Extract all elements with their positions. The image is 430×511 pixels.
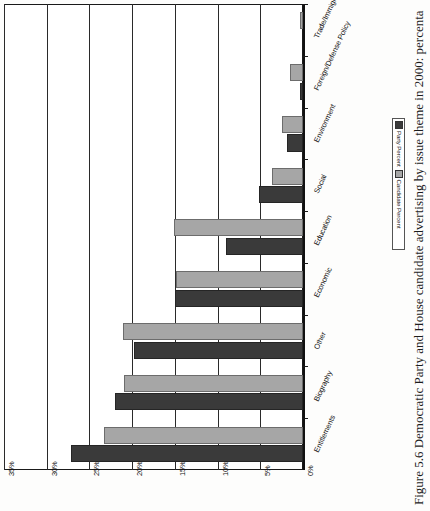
bar-candidate-social	[272, 168, 303, 185]
legend-swatch-party-icon	[396, 121, 404, 129]
category-tick-biography	[303, 366, 308, 367]
bar-candidate-economic	[176, 271, 303, 288]
bar-candidate-biography	[124, 375, 303, 392]
bar-party-entitlements	[71, 445, 303, 462]
bar-party-biography	[115, 393, 303, 410]
legend-swatch-candidate-icon	[396, 170, 404, 178]
bar-party-education	[226, 238, 303, 255]
category-tick-other	[303, 315, 308, 316]
bar-group-biography	[4, 366, 303, 418]
bar-party-economic	[175, 290, 303, 307]
bar-series-layer	[4, 4, 303, 470]
bar-party-foreign-defense-policy	[300, 83, 303, 100]
category-tick-economic	[303, 263, 308, 264]
value-tick-label-5pct: 5%	[263, 466, 272, 476]
value-tick-label-15pct: 15%	[178, 462, 187, 476]
category-tick-trade-immigration	[303, 4, 308, 5]
bar-group-social	[4, 159, 303, 211]
value-tick-label-35pct: 35%	[7, 462, 16, 476]
bar-candidate-trade-immigration	[300, 12, 303, 29]
bar-group-entitlements	[4, 418, 303, 470]
bar-group-economic	[4, 263, 303, 315]
bar-candidate-environment	[282, 116, 303, 133]
value-tick-label-10pct: 10%	[221, 462, 230, 476]
bar-group-education	[4, 211, 303, 263]
legend-entry-candidate: Candidate Percent	[396, 170, 404, 229]
value-tick-label-30pct: 30%	[50, 462, 59, 476]
gridline-0pct	[303, 4, 305, 470]
bar-party-social	[259, 186, 303, 203]
value-tick-label-20pct: 20%	[135, 462, 144, 476]
legend-label-party: Party Percent	[396, 131, 403, 167]
bar-candidate-other	[123, 323, 303, 340]
figure-caption: Figure 5.6 Democratic Party and House ca…	[411, 0, 430, 505]
value-tick-label-0pct: 0%	[306, 466, 315, 476]
bar-candidate-entitlements	[104, 427, 303, 444]
bar-party-other	[134, 342, 303, 359]
bar-party-environment	[287, 134, 303, 151]
category-tick-education	[303, 211, 308, 212]
bar-candidate-education	[174, 219, 303, 236]
chart-legend: Party Percent Candidate Percent	[392, 118, 405, 250]
legend-entry-party: Party Percent	[396, 121, 404, 167]
category-tick-foreign-defense-policy	[303, 56, 308, 57]
bar-group-other	[4, 315, 303, 367]
category-tick-social	[303, 159, 308, 160]
bar-group-environment	[4, 108, 303, 160]
bar-group-trade-immigration	[4, 4, 303, 56]
bar-group-foreign-defense-policy	[4, 56, 303, 108]
value-tick-label-25pct: 25%	[92, 462, 101, 476]
legend-label-candidate: Candidate Percent	[396, 180, 403, 229]
category-tick-entitlements	[303, 418, 308, 419]
category-tick-environment	[303, 108, 308, 109]
bar-candidate-foreign-defense-policy	[290, 64, 303, 81]
